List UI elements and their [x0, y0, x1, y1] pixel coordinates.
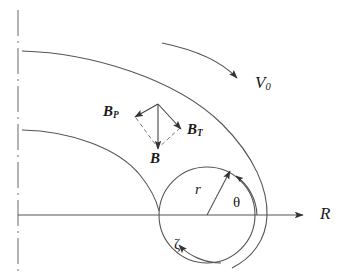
zeta-angle-arc	[179, 245, 221, 263]
theta-label: θ	[233, 195, 240, 210]
zeta-label: ζ	[174, 237, 180, 252]
bt-toroidal-vector	[158, 104, 181, 129]
physics-diagram: V0 BP BT B r θ ζ R	[0, 0, 347, 280]
bt-label: BT	[187, 122, 203, 138]
v0-label: V0	[255, 74, 271, 92]
v0-flow-arrow	[162, 43, 237, 78]
r-axis-label: R	[320, 205, 330, 222]
b-label: B	[150, 151, 160, 166]
r-radius-arrow	[207, 171, 230, 215]
outer-field-line	[22, 51, 267, 268]
bp-poloidal-vector	[135, 104, 158, 117]
r-radius-label: r	[195, 182, 201, 197]
bp-label: BP	[103, 104, 119, 120]
inner-field-line	[22, 130, 159, 211]
